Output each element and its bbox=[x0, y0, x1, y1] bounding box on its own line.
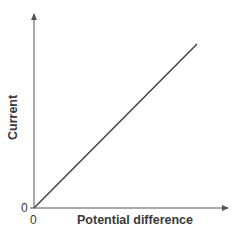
chart-canvas bbox=[0, 0, 241, 238]
origin-y-label: 0 bbox=[21, 201, 28, 215]
y-axis-title: Current bbox=[6, 95, 20, 140]
data-line bbox=[34, 44, 197, 208]
origin-x-label: 0 bbox=[30, 213, 37, 227]
x-axis-title: Potential difference bbox=[77, 213, 193, 227]
